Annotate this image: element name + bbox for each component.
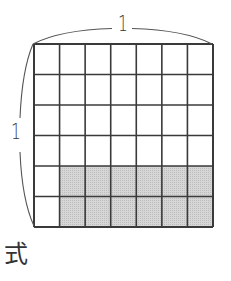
shaded-cell: [136, 166, 162, 197]
shaded-cell: [85, 197, 111, 228]
shaded-cell: [187, 166, 213, 197]
left-brace-lower-arc: [20, 152, 34, 226]
shaded-cell: [187, 197, 213, 228]
left-brace-upper-arc: [20, 44, 33, 118]
top-brace-right-arc: [132, 29, 212, 45]
shaded-cell: [136, 197, 162, 228]
shaded-cell: [111, 166, 137, 197]
expression-label: 式: [4, 242, 28, 266]
shaded-cell: [162, 197, 188, 228]
shaded-cell: [85, 166, 111, 197]
left-length-label: 1: [11, 121, 21, 143]
top-brace-left-arc: [33, 29, 112, 45]
shaded-cell: [162, 166, 188, 197]
top-length-label: 1: [118, 13, 128, 35]
unit-square-grid-diagram: [0, 0, 231, 281]
shaded-cell: [111, 197, 137, 228]
shaded-cell: [60, 166, 86, 197]
shaded-cell: [60, 197, 86, 228]
